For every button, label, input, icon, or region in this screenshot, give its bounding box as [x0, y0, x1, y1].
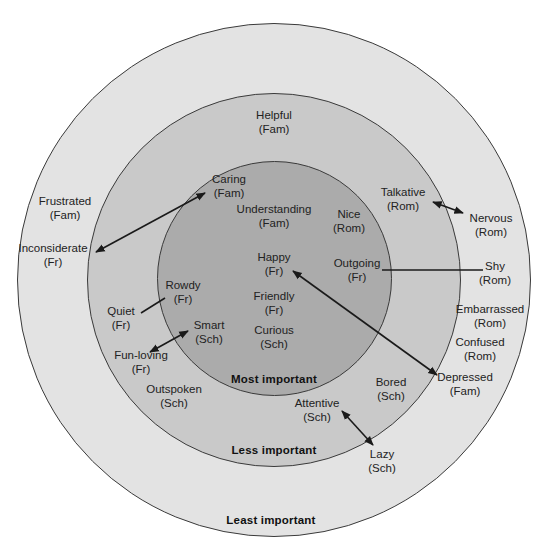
trait-nice: Nice(Rom)	[333, 207, 365, 235]
trait-inconsiderate: Inconsiderate(Fr)	[18, 241, 87, 269]
trait-group: (Rom)	[455, 349, 504, 363]
trait-group: (Rom)	[470, 225, 513, 239]
trait-group: (Rom)	[479, 273, 511, 287]
trait-lazy: Lazy(Sch)	[368, 447, 395, 475]
trait-group: (Fam)	[39, 208, 91, 222]
trait-group: (Sch)	[295, 410, 340, 424]
trait-group: (Sch)	[254, 337, 294, 351]
trait-group: (Sch)	[376, 389, 407, 403]
trait-word: Smart	[194, 318, 225, 332]
trait-group: (Fam)	[237, 216, 312, 230]
trait-group: (Fr)	[257, 264, 290, 278]
trait-group: (Fr)	[18, 255, 87, 269]
trait-word: Confused	[455, 335, 504, 349]
trait-group: (Fr)	[165, 292, 200, 306]
trait-word: Friendly	[254, 289, 295, 303]
trait-group: (Sch)	[194, 332, 225, 346]
trait-word: Depressed	[437, 370, 493, 384]
trait-word: Caring	[212, 172, 246, 186]
trait-shy: Shy(Rom)	[479, 259, 511, 287]
trait-word: Fun-loving	[114, 348, 168, 362]
trait-word: Frustrated	[39, 194, 91, 208]
trait-word: Inconsiderate	[18, 241, 87, 255]
trait-quiet: Quiet(Fr)	[107, 304, 135, 332]
trait-talkative: Talkative(Rom)	[381, 185, 426, 213]
trait-bored: Bored(Sch)	[376, 375, 407, 403]
trait-outgoing: Outgoing(Fr)	[334, 256, 381, 284]
trait-word: Talkative	[381, 185, 426, 199]
trait-fun-loving: Fun-loving(Fr)	[114, 348, 168, 376]
trait-word: Rowdy	[165, 278, 200, 292]
trait-group: (Rom)	[456, 316, 524, 330]
trait-confused: Confused(Rom)	[455, 335, 504, 363]
trait-group: (Fam)	[212, 186, 246, 200]
trait-group: (Fr)	[114, 362, 168, 376]
trait-happy: Happy(Fr)	[257, 250, 290, 278]
zone-label-less-important: Less important	[231, 444, 316, 456]
trait-curious: Curious(Sch)	[254, 323, 294, 351]
importance-circles-diagram: Most important Less important Least impo…	[0, 0, 546, 547]
trait-smart: Smart(Sch)	[194, 318, 225, 346]
trait-helpful: Helpful(Fam)	[256, 108, 292, 136]
trait-word: Bored	[376, 375, 407, 389]
trait-group: (Fr)	[254, 303, 295, 317]
trait-word: Shy	[479, 259, 511, 273]
trait-word: Lazy	[368, 447, 395, 461]
trait-group: (Sch)	[368, 461, 395, 475]
trait-word: Nervous	[470, 211, 513, 225]
trait-attentive: Attentive(Sch)	[295, 396, 340, 424]
trait-group: (Fam)	[437, 384, 493, 398]
trait-word: Helpful	[256, 108, 292, 122]
trait-word: Embarrassed	[456, 302, 524, 316]
trait-word: Outspoken	[146, 382, 202, 396]
zone-label-least-important: Least important	[226, 514, 315, 526]
trait-word: Outgoing	[334, 256, 381, 270]
trait-group: (Fr)	[334, 270, 381, 284]
zone-label-most-important: Most important	[231, 373, 317, 385]
trait-group: (Fam)	[256, 122, 292, 136]
trait-word: Quiet	[107, 304, 135, 318]
trait-word: Attentive	[295, 396, 340, 410]
trait-embarrassed: Embarrassed(Rom)	[456, 302, 524, 330]
trait-frustrated: Frustrated(Fam)	[39, 194, 91, 222]
trait-rowdy: Rowdy(Fr)	[165, 278, 200, 306]
trait-word: Nice	[333, 207, 365, 221]
trait-word: Understanding	[237, 202, 312, 216]
trait-word: Happy	[257, 250, 290, 264]
trait-caring: Caring(Fam)	[212, 172, 246, 200]
trait-group: (Sch)	[146, 396, 202, 410]
trait-nervous: Nervous(Rom)	[470, 211, 513, 239]
trait-word: Curious	[254, 323, 294, 337]
trait-group: (Rom)	[381, 199, 426, 213]
trait-group: (Rom)	[333, 221, 365, 235]
trait-friendly: Friendly(Fr)	[254, 289, 295, 317]
trait-group: (Fr)	[107, 318, 135, 332]
trait-understanding: Understanding(Fam)	[237, 202, 312, 230]
trait-outspoken: Outspoken(Sch)	[146, 382, 202, 410]
trait-depressed: Depressed(Fam)	[437, 370, 493, 398]
